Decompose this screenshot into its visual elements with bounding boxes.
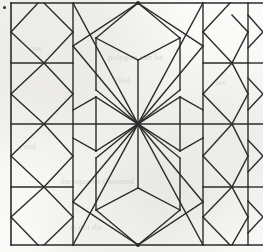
crease-line-bl-v3-r-up (44, 124, 73, 156)
crease-line-rt-oct-a-dn (203, 32, 232, 63)
crease-line-tl-oct-r-up (44, 3, 73, 32)
crease-line-diag-tl-low (73, 46, 138, 124)
crease-line-far-r-d-up (248, 201, 263, 217)
crease-line-wing-r-out-u (180, 97, 203, 110)
crease-line-bl-v4-up (11, 187, 44, 217)
crease-line-hex-r-low (138, 90, 180, 124)
crease-line-hex-l-low (96, 90, 138, 124)
crease-line-diag-br-long (138, 202, 203, 245)
crease-line-hex-t-left (96, 3, 138, 38)
crease-line-rt-oct-d-up (203, 63, 232, 94)
crease-line-diag-br-up (138, 124, 203, 202)
crease-line-hexb-l-hi (96, 124, 138, 158)
crease-line-rt-oct-c-up (232, 63, 248, 94)
crease-line-tl-v2-r-dn (44, 94, 73, 124)
crease-line-rt-oct-b-up (232, 15, 248, 32)
crease-line-rt-oct-g-dn (232, 217, 248, 245)
crease-line-rt-oct-h-dn (203, 217, 230, 245)
convergence-node-center (136, 122, 140, 126)
crease-line-rt-oct-e-dn (232, 156, 248, 187)
crease-line-rt-oct-f-up (203, 124, 232, 156)
crease-line-hexb-r-hi (138, 124, 180, 158)
diagram-canvas: polygon can betiledthe squares flattened… (0, 0, 263, 252)
crease-line-far-r-c-dn (248, 156, 263, 172)
crease-line-diag-bl-long (73, 202, 138, 245)
crease-line-bl-v4-r-dn (44, 217, 73, 245)
crease-line-tl-v2-dn (11, 94, 44, 124)
crease-line-group (11, 1, 263, 247)
crease-line-hex-t-right (138, 3, 180, 38)
crease-line-hexb-b-left (96, 210, 138, 245)
crease-line-far-r-d-dn (248, 217, 263, 233)
registration-dot (3, 6, 6, 9)
crease-line-far-r-a-up (248, 15, 263, 32)
crease-line-far-r-b-dn (248, 94, 263, 110)
crease-line-tl-v2-r-up (44, 63, 73, 94)
crease-line-bl-v3-up (11, 124, 44, 156)
crease-line-wing-l-out-d (73, 138, 96, 151)
crease-line-diag-tl-long (73, 3, 138, 46)
crease-line-rt-oct-d-dn (203, 94, 232, 124)
crease-line-rt-oct-b-dn (232, 32, 248, 63)
convergence-node-bottom (136, 243, 140, 247)
crease-line-far-r-c-up (248, 140, 263, 156)
crease-line-x-br-a (138, 124, 203, 245)
crease-line-far-r-a-dn (248, 32, 263, 48)
crease-line-wing-l-out-u (73, 97, 96, 110)
crease-line-rt-oct-g-up (232, 187, 248, 217)
crease-line-diag-tr-low (138, 46, 203, 124)
crease-line-rt-oct-c-dn (232, 94, 248, 124)
crease-line-tl-v2-up (11, 63, 44, 94)
crease-line-bl-v3-dn (11, 156, 44, 187)
crease-pattern-svg (0, 0, 263, 252)
crease-line-x-bl-a (73, 124, 138, 245)
crease-line-tl-oct-dn (11, 32, 44, 63)
crease-line-x-tr-a (138, 3, 203, 124)
crease-line-bl-v4-r-up (44, 187, 73, 217)
crease-line-diag-bl-up (73, 124, 138, 202)
crease-line-rt-oct-h-up (203, 187, 232, 217)
crease-line-far-r-b-up (248, 78, 263, 94)
crease-line-wing-r-dn (138, 124, 180, 151)
crease-line-rt-oct-f-dn (203, 156, 232, 187)
crease-line-hexb-b-right (138, 210, 180, 245)
crease-line-wing-r-out-d (180, 138, 203, 151)
crease-line-wing-r-up (138, 97, 180, 124)
crease-line-bl-v3-r-dn (44, 156, 73, 187)
convergence-node-top (136, 1, 140, 5)
crease-line-tl-oct-up (11, 3, 38, 32)
crease-line-rt-oct-a-up (203, 3, 230, 32)
crease-line-diag-tr-long (138, 3, 203, 46)
crease-line-tl-oct-r-dn (44, 32, 73, 63)
crease-line-wing-l-dn (96, 124, 138, 151)
crease-line-bl-v4-dn (11, 217, 38, 245)
crease-line-x-tl-a (73, 3, 138, 124)
crease-line-wing-l-up (96, 97, 138, 124)
crease-line-rt-oct-e-up (232, 124, 248, 156)
